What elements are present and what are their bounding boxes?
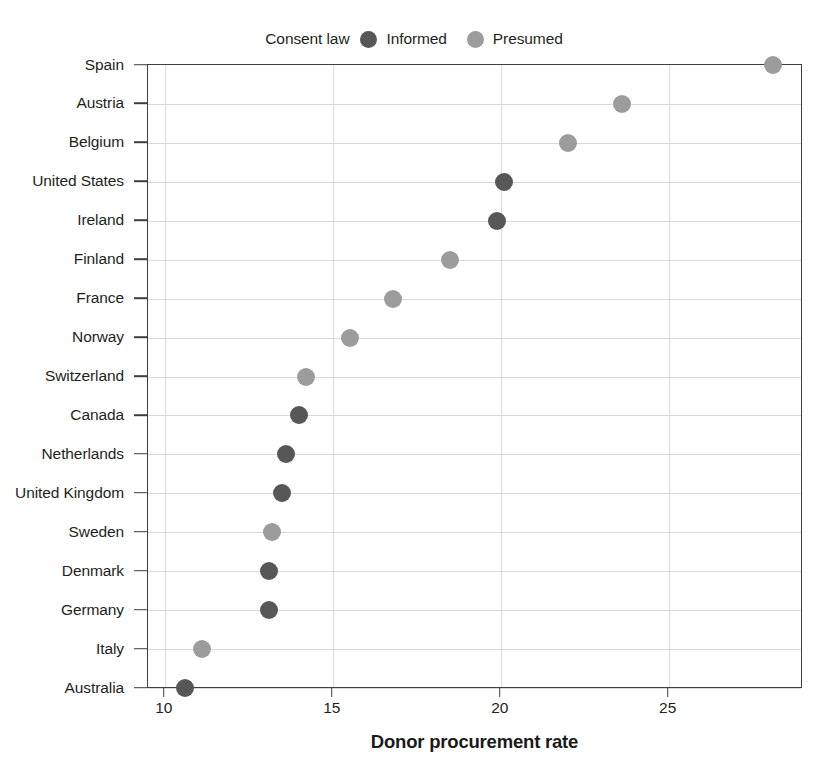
legend-label-informed: Informed (386, 30, 446, 48)
y-tick-mark (134, 687, 147, 689)
legend-swatch-presumed-icon (467, 31, 484, 48)
legend-label-presumed: Presumed (493, 30, 563, 48)
y-tick-mark (134, 142, 147, 144)
x-tick-label: 10 (155, 699, 172, 717)
y-tick-mark (134, 492, 147, 494)
data-point[interactable] (290, 406, 308, 424)
x-tick-mark (499, 688, 501, 697)
x-axis-title: Donor procurement rate (147, 731, 802, 753)
dot-plot-figure: Consent law Informed Presumed SpainAustr… (0, 0, 828, 773)
x-tick-mark (667, 688, 669, 697)
y-tick-mark (134, 297, 147, 299)
data-point[interactable] (273, 484, 291, 502)
y-tick-label: Austria (76, 94, 124, 112)
y-tick-mark (134, 219, 147, 221)
y-tick-label: United States (32, 172, 124, 190)
x-tick-label: 15 (323, 699, 340, 717)
data-point[interactable] (297, 368, 315, 386)
legend-entry-presumed[interactable]: Presumed (467, 30, 563, 48)
legend-swatch-informed-icon (360, 31, 377, 48)
x-tick-mark (163, 688, 165, 697)
y-axis: SpainAustriaBelgiumUnited StatesIrelandF… (0, 64, 147, 688)
y-tick-label: Australia (65, 679, 124, 697)
y-tick-mark (134, 531, 147, 533)
x-tick-label: 25 (659, 699, 676, 717)
data-point[interactable] (488, 212, 506, 230)
y-tick-label: Norway (72, 328, 124, 346)
y-tick-label: Italy (96, 640, 124, 658)
data-point[interactable] (260, 562, 278, 580)
data-point[interactable] (384, 290, 402, 308)
y-tick-label: Sweden (69, 523, 124, 541)
y-tick-label: France (76, 289, 124, 307)
data-points-layer (148, 65, 801, 687)
data-point[interactable] (260, 601, 278, 619)
y-tick-mark (134, 570, 147, 572)
data-point[interactable] (193, 640, 211, 658)
y-tick-label: Netherlands (42, 445, 124, 463)
y-tick-mark (134, 453, 147, 455)
x-tick-mark (331, 688, 333, 697)
data-point[interactable] (277, 445, 295, 463)
x-axis: 10152025 (147, 688, 802, 728)
y-tick-label: Denmark (62, 562, 124, 580)
y-tick-label: Canada (70, 406, 124, 424)
data-point[interactable] (441, 251, 459, 269)
y-tick-label: Spain (85, 56, 124, 74)
data-point[interactable] (263, 523, 281, 541)
data-point[interactable] (764, 56, 782, 74)
y-tick-mark (134, 414, 147, 416)
legend-title: Consent law (265, 30, 349, 48)
y-tick-mark (134, 375, 147, 377)
y-tick-mark (134, 64, 147, 66)
y-tick-mark (134, 258, 147, 260)
y-tick-mark (134, 336, 147, 338)
plot-area (147, 64, 802, 688)
data-point[interactable] (613, 95, 631, 113)
data-point[interactable] (495, 173, 513, 191)
y-tick-mark (134, 609, 147, 611)
y-tick-label: United Kingdom (15, 484, 124, 502)
x-tick-label: 20 (491, 699, 508, 717)
y-tick-label: Belgium (69, 133, 124, 151)
y-tick-mark (134, 181, 147, 183)
legend-entry-informed[interactable]: Informed (360, 30, 446, 48)
y-tick-label: Ireland (77, 211, 124, 229)
y-tick-label: Switzerland (45, 367, 124, 385)
y-tick-label: Finland (74, 250, 124, 268)
data-point[interactable] (341, 329, 359, 347)
data-point[interactable] (559, 134, 577, 152)
y-tick-label: Germany (61, 601, 124, 619)
chart-legend: Consent law Informed Presumed (0, 26, 828, 52)
y-tick-mark (134, 648, 147, 650)
y-tick-mark (134, 103, 147, 105)
